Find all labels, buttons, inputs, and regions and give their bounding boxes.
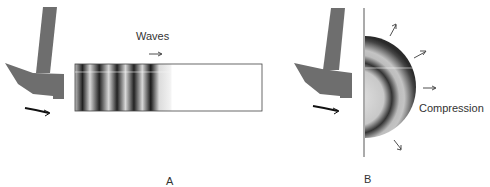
compression-semicircle [365, 36, 416, 138]
panel-a-label: A [166, 175, 173, 187]
waves-arrow-icon [149, 52, 162, 56]
hammer-b-icon [294, 8, 352, 98]
hammer-a-icon [5, 7, 64, 99]
panel-b-label: B [364, 173, 371, 185]
wave-bar [75, 64, 262, 111]
diagram-canvas [0, 0, 490, 187]
waves-label: Waves [136, 30, 169, 42]
compression-label: Compression [419, 102, 484, 114]
